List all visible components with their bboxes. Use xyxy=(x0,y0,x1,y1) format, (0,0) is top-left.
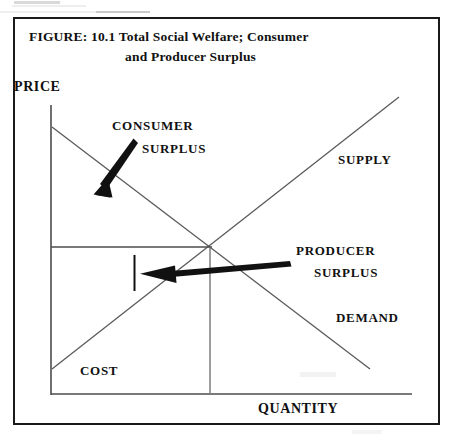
producer-surplus-arrow xyxy=(140,261,292,283)
producer-surplus-label-line-1: PRODUCER xyxy=(296,243,375,259)
demand-curve-label: DEMAND xyxy=(336,310,399,326)
supply-curve-label: SUPPLY xyxy=(338,152,392,168)
producer-surplus-label-line-2: SURPLUS xyxy=(314,265,378,281)
consumer-surplus-arrow xyxy=(94,139,139,198)
cost-area-label: COST xyxy=(80,363,118,379)
supply-curve xyxy=(52,97,399,369)
consumer-surplus-label-line-1: CONSUMER xyxy=(112,118,193,134)
consumer-surplus-label-line-2: SURPLUS xyxy=(142,141,206,157)
figure-page: FIGURE: 10.1 Total Social Welfare; Consu… xyxy=(0,0,450,442)
graph-canvas xyxy=(0,0,450,442)
